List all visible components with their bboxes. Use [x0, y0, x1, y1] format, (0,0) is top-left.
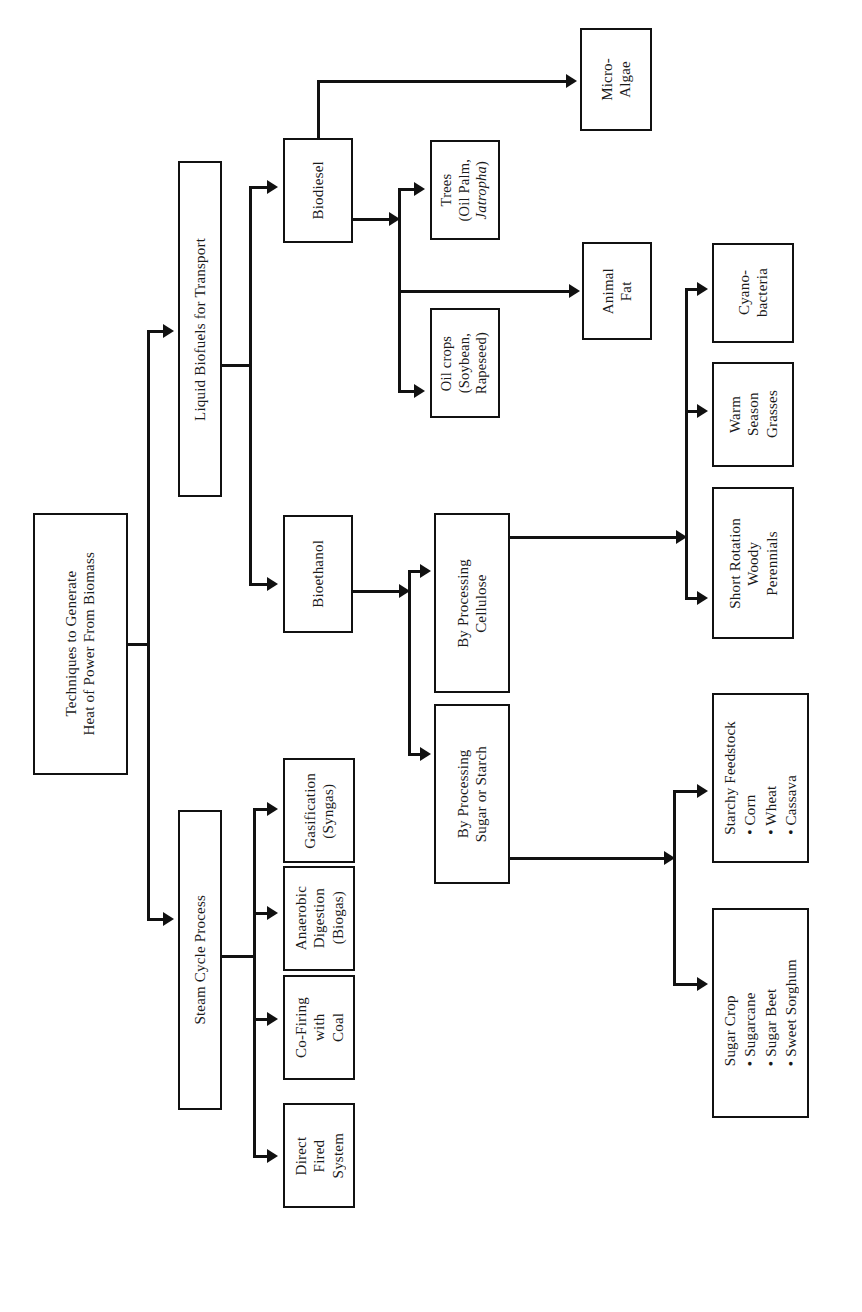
node-starchy-feedstock: Starchy Feedstock • Corn • Wheat • Cassa…	[712, 693, 809, 863]
arrowhead-biodiesel	[267, 180, 278, 194]
arrowhead-cyanobacteria	[697, 282, 708, 296]
edge-to-bioethanol	[249, 583, 269, 586]
node-bioethanol: Bioethanol	[283, 515, 353, 633]
edge-steamcycle-out	[222, 955, 256, 958]
node-oil-crops-label: Oil crops (Soybean, Rapeseed)	[438, 330, 491, 396]
arrowhead-warm-season-grasses	[697, 404, 708, 418]
node-sugar-crop-label: Sugar Crop • Sugarcane • Sugar Beet • Sw…	[720, 957, 801, 1068]
edge-steamcycle-bus	[253, 808, 256, 1158]
node-warm-season-grasses: Warm Season Grasses	[712, 362, 794, 467]
node-short-rotation: Short Rotation Woody Perennials	[712, 487, 794, 639]
flowchart-canvas: Techniques to Generate Heat of Power Fro…	[0, 0, 862, 1312]
node-root: Techniques to Generate Heat of Power Fro…	[33, 513, 128, 775]
arrowhead-liquid-biofuels	[163, 324, 174, 338]
node-anaerobic-digestion: Anaerobic Digestion (Biogas)	[283, 866, 355, 971]
node-cyanobacteria-label: Cyano- bacteria	[735, 266, 772, 319]
edge-cellulose-bus	[685, 288, 688, 600]
arrowhead-by-cellulose	[420, 564, 431, 578]
edge-biodiesel-to-algae-vertical	[317, 80, 320, 140]
node-by-cellulose: By Processing Cellulose	[434, 513, 510, 693]
node-steam-cycle-label: Steam Cycle Process	[191, 893, 209, 1027]
edge-sugarstarch-out	[510, 857, 668, 860]
edge-liquidbiofuels-bus	[249, 186, 252, 586]
node-bioethanol-label: Bioethanol	[309, 538, 327, 610]
arrowhead-cofiring	[267, 1012, 278, 1026]
node-short-rotation-label: Short Rotation Woody Perennials	[726, 516, 781, 611]
edge-biodiesel-to-algae	[317, 80, 568, 83]
node-biodiesel: Biodiesel	[283, 138, 353, 243]
arrowhead-bioethanol	[267, 577, 278, 591]
node-co-firing: Co-Firing with Coal	[283, 975, 355, 1080]
edge-bioethanol-bus	[408, 570, 411, 755]
node-liquid-biofuels: Liquid Biofuels for Transport	[178, 161, 222, 497]
arrowhead-directfired	[267, 1149, 278, 1163]
node-by-cellulose-label: By Processing Cellulose	[454, 557, 491, 650]
arrowhead-animal-fat	[569, 284, 580, 298]
arrowhead-starchy-feedstock	[697, 784, 708, 798]
node-anaerobic-digestion-label: Anaerobic Digestion (Biogas)	[292, 884, 347, 952]
node-animal-fat-label: Animal Fat	[599, 266, 636, 316]
edge-liquidbiofuels-out	[222, 364, 252, 367]
node-root-label: Techniques to Generate Heat of Power Fro…	[62, 550, 99, 738]
arrowhead-oil-crops	[414, 384, 425, 398]
arrowhead-short-rotation	[697, 591, 708, 605]
edge-to-animal-fat	[398, 290, 571, 293]
arrowhead-trees	[414, 182, 425, 196]
node-by-sugar-starch: By Processing Sugar or Starch	[434, 704, 510, 884]
node-micro-algae: Micro- Algae	[580, 28, 652, 131]
node-direct-fired-label: Direct Fired System	[292, 1131, 347, 1180]
node-trees-label: Trees (Oil Palm, Jatropha)	[438, 157, 491, 223]
edge-sugarstarch-bus	[673, 790, 676, 986]
arrowhead-micro-algae	[566, 74, 577, 88]
edge-cellulose-out	[510, 536, 680, 539]
arrowhead-anaerobic	[267, 906, 278, 920]
node-micro-algae-label: Micro- Algae	[598, 56, 635, 103]
edge-to-biodiesel	[249, 186, 269, 189]
node-animal-fat: Animal Fat	[582, 242, 652, 340]
arrowhead-steam-cycle	[163, 912, 174, 926]
edge-root-trunk-vertical	[147, 330, 150, 920]
node-biodiesel-label: Biodiesel	[309, 159, 327, 221]
node-starchy-feedstock-label: Starchy Feedstock • Corn • Wheat • Cassa…	[720, 719, 801, 837]
edge-biodiesel-out	[353, 218, 393, 221]
node-cyanobacteria: Cyano- bacteria	[712, 243, 794, 343]
node-warm-season-grasses-label: Warm Season Grasses	[726, 388, 781, 440]
edge-to-starchy-feedstock	[673, 790, 699, 793]
node-by-sugar-starch-label: By Processing Sugar or Starch	[454, 744, 491, 844]
edge-bioethanol-out	[353, 590, 403, 593]
node-steam-cycle: Steam Cycle Process	[178, 810, 222, 1110]
node-liquid-biofuels-label: Liquid Biofuels for Transport	[191, 236, 209, 423]
node-oil-crops: Oil crops (Soybean, Rapeseed)	[430, 308, 500, 418]
node-trees: Trees (Oil Palm, Jatropha)	[430, 140, 500, 240]
node-gasification: Gasification (Syngas)	[283, 758, 355, 863]
arrowhead-by-sugar-starch	[420, 747, 431, 761]
node-co-firing-label: Co-Firing with Coal	[292, 995, 347, 1060]
arrowhead-sugar-crop	[697, 977, 708, 991]
node-direct-fired: Direct Fired System	[283, 1103, 355, 1208]
edge-to-sugar-crop	[673, 983, 699, 986]
arrowhead-gasification	[267, 802, 278, 816]
node-sugar-crop: Sugar Crop • Sugarcane • Sugar Beet • Sw…	[712, 908, 809, 1118]
node-gasification-label: Gasification (Syngas)	[301, 771, 338, 851]
